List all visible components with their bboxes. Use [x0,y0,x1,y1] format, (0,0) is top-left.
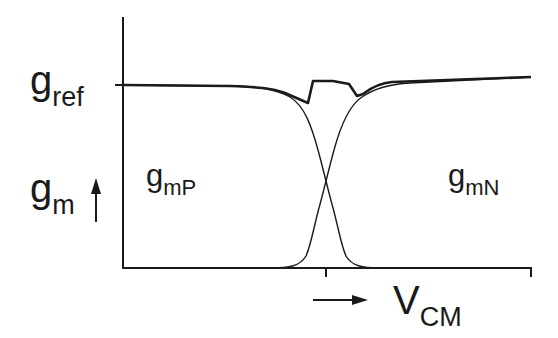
g-ref-main: g [30,58,52,102]
g-ref-subscript: ref [52,82,84,112]
g-mP-subscript: mP [163,175,196,200]
g-mP-main: g [146,158,163,193]
v-cm-axis-label: VCM [393,280,462,331]
v-cm-main: V [393,278,420,322]
gm-up-arrow-icon [91,178,101,194]
g-m-axis-label: gm [30,168,75,219]
vcm-right-arrow-icon [352,295,368,305]
g-ref-label: gref [30,60,84,111]
g-m-main: g [30,166,52,210]
total-gm-curve [123,77,531,103]
g-mP-label: gmP [146,160,196,199]
g-m-subscript: m [52,190,75,220]
g-mN-main: g [448,158,465,193]
g-mN-label: gmN [448,160,499,199]
g-mN-subscript: mN [465,175,499,200]
v-cm-subscript: CM [420,302,462,332]
